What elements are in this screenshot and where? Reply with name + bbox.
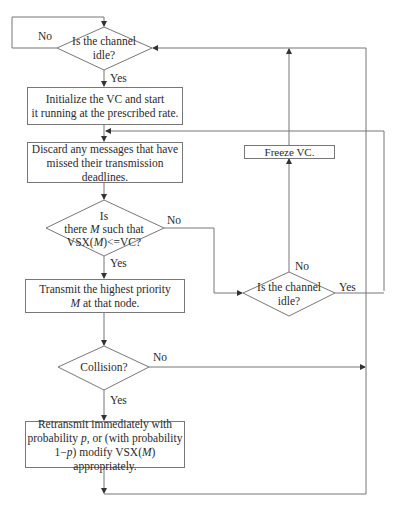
process-init-vc-line2: it running at the prescribed rate. [32, 106, 179, 120]
process-init-vc-line1: Initialize the VC and start [46, 92, 165, 106]
decision-collision: Collision? [80, 360, 127, 374]
process-retransmit-line2: probability p, or (with probability [28, 431, 183, 445]
edge-label-vsx-yes: Yes [110, 257, 127, 270]
process-retransmit: Retransmit immediately with probability … [25, 421, 185, 468]
decision-vsx-line3: VSX(M)<=VC? [64, 236, 144, 249]
decision-vsx: Is there M such that VSX(M)<=VC? [64, 210, 144, 249]
edge-label-collision-yes: Yes [110, 394, 127, 407]
decision-idle-1-line1: Is the channel [72, 34, 136, 48]
decision-idle-1-line2: idle? [72, 48, 136, 62]
process-retransmit-line1: Retransmit immediately with [38, 417, 172, 431]
decision-vsx-line2: there M such that [64, 223, 144, 236]
edge-label-idle1-yes: Yes [110, 72, 127, 85]
process-transmit-line1: Transmit the highest priority [39, 282, 171, 296]
decision-idle-2: Is the channel idle? [257, 280, 321, 308]
decision-idle-2-line2: idle? [257, 294, 321, 308]
edge-label-idle1-no: No [38, 30, 52, 43]
decision-idle-2-line1: Is the channel [257, 280, 321, 294]
process-init-vc: Initialize the VC and start it running a… [27, 87, 183, 125]
process-retransmit-line3: 1−p) modify VSX(M) appropriately. [26, 445, 184, 473]
edge-label-idle2-no: No [295, 260, 309, 273]
process-transmit: Transmit the highest priority M at that … [25, 279, 185, 313]
process-transmit-line2: M at that node. [71, 296, 140, 310]
edge-label-vsx-no: No [167, 214, 181, 227]
process-freeze-vc-label: Freeze VC. [265, 146, 315, 158]
decision-collision-line1: Collision? [80, 360, 127, 374]
decision-idle-1: Is the channel idle? [72, 34, 136, 62]
process-freeze-vc: Freeze VC. [244, 145, 335, 159]
edge-label-collision-no: No [153, 351, 167, 364]
decision-vsx-line1: Is [64, 210, 144, 223]
process-discard: Discard any messages that have missed th… [27, 142, 183, 183]
process-discard-line2: missed their transmission deadlines. [28, 156, 182, 184]
edge-label-idle2-yes: Yes [339, 281, 356, 294]
process-discard-line1: Discard any messages that have [32, 142, 178, 156]
